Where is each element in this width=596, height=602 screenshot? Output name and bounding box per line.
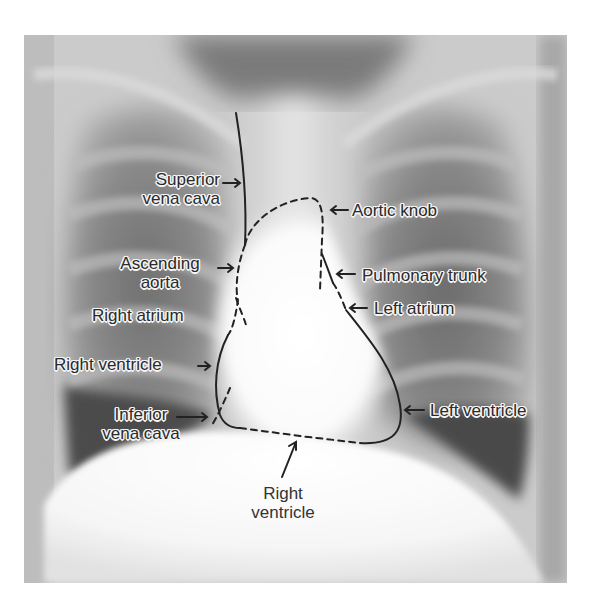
chest-xray-figure: Superior vena cava Ascending aorta Right… [0,0,596,602]
arrow-right-ventricle-bottom [282,442,296,477]
label-svc-line1: Superior [120,170,220,189]
left-atrium-outline [333,283,346,310]
label-right-atrium: Right atrium [92,306,184,325]
arrow-aortic-knob [331,206,348,214]
right-ventricle-outline [216,335,240,428]
arrow-left-ventricle [405,406,424,414]
label-ivc-line2: vena cava [88,424,194,443]
aortic-arch-outline [245,198,323,290]
right-atrium-branch [236,298,246,325]
arrow-left-atrium [350,304,367,312]
label-aortic-knob: Aortic knob [352,201,437,220]
label-right-ventricle-bottom: Right ventricle [243,484,323,522]
label-superior-vena-cava: Superior vena cava [120,170,220,208]
ascending-aorta-outline [228,245,245,335]
label-ascending-aorta-line2: aorta [104,273,216,292]
label-right-ventricle-left: Right ventricle [54,355,162,374]
label-left-ventricle: Left ventricle [430,401,526,420]
arrow-pulmonary-trunk [337,270,355,278]
label-rv-bottom-line1: Right [243,484,323,503]
ivc-outline [212,388,230,425]
svc-outline [236,113,245,245]
label-pulmonary-trunk: Pulmonary trunk [362,266,486,285]
arrow-right-ventricle [198,362,210,370]
label-ascending-aorta-line1: Ascending [104,254,216,273]
left-ventricle-outline [346,310,401,443]
arrow-svc [223,179,240,187]
label-ascending-aorta: Ascending aorta [104,254,216,292]
label-rv-bottom-line2: ventricle [243,503,323,522]
label-svc-line2: vena cava [120,189,220,208]
label-ivc-line1: Inferior [88,405,194,424]
label-inferior-vena-cava: Inferior vena cava [88,405,194,443]
label-left-atrium: Left atrium [374,299,454,318]
arrows [177,179,424,477]
inferior-border-outline [240,428,360,443]
pulmonary-trunk-outline [322,254,333,283]
arrow-ascending-aorta [218,264,233,272]
